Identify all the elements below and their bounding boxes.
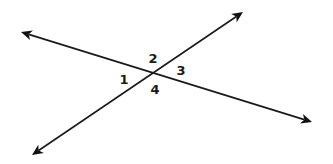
angle-label-4: 4 — [150, 82, 159, 97]
angle-label-2: 2 — [148, 51, 157, 66]
angle-label-3: 3 — [176, 63, 185, 78]
line-a-segment — [29, 34, 305, 119]
line-b-segment — [39, 16, 237, 150]
arrowhead-icon — [32, 145, 44, 155]
lines-layer — [21, 12, 312, 155]
arrowhead-icon — [231, 12, 243, 22]
line-b — [32, 12, 243, 155]
intersecting-lines-diagram: 1 2 3 4 — [0, 0, 333, 164]
line-a — [21, 30, 312, 123]
angle-label-1: 1 — [119, 72, 128, 87]
